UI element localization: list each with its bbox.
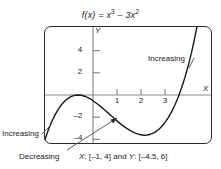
annotation-increasing-left: Increasing xyxy=(1,129,40,138)
y-tick-label-minus-4: –4 xyxy=(70,133,86,142)
annotation-decreasing: Decreasing xyxy=(19,152,59,161)
y-tick-label-minus-2: –2 xyxy=(70,111,86,120)
y-axis-label: Y xyxy=(95,26,100,35)
window-range-caption: X: [–1, 4] and Y: [–4.5, 6] xyxy=(79,152,168,161)
x-tick-label-1: 1 xyxy=(111,96,123,105)
function-curve xyxy=(45,27,197,140)
plot-graphics xyxy=(0,0,221,169)
annotation-increasing-right: Increasing xyxy=(148,54,185,63)
caption-y-range: : [–4.5, 6] xyxy=(134,152,167,161)
x-axis-label: X xyxy=(203,84,208,93)
figure-container: f(x) = x3 – 3x2 Y X 4 2 –2 –4 1 2 3 xyxy=(0,0,221,169)
x-tick-label-3: 3 xyxy=(159,96,171,105)
y-tick-label-2: 2 xyxy=(74,67,86,76)
y-tick-label-4: 4 xyxy=(74,45,86,54)
x-tick-label-2: 2 xyxy=(135,96,147,105)
caption-x-range: : [–1, 4] and xyxy=(84,152,128,161)
